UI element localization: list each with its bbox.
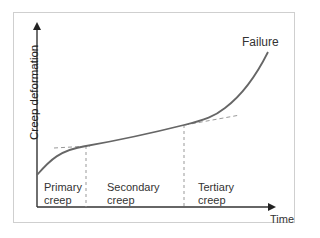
primary-creep-label-line2: creep bbox=[44, 194, 72, 206]
y-axis-label: Creep deformation bbox=[28, 45, 40, 140]
tertiary-creep-label-line2: creep bbox=[198, 194, 226, 206]
failure-label: Failure bbox=[242, 36, 279, 48]
secondary-creep-label-line2: creep bbox=[107, 194, 135, 206]
creep-curve bbox=[37, 52, 268, 175]
secondary-creep-label-line1: Secondary bbox=[107, 181, 160, 193]
primary-creep-label-line1: Primary bbox=[44, 181, 82, 193]
tertiary-creep-label-line1: Tertiary bbox=[198, 181, 234, 193]
x-axis-label: Time bbox=[270, 213, 294, 225]
